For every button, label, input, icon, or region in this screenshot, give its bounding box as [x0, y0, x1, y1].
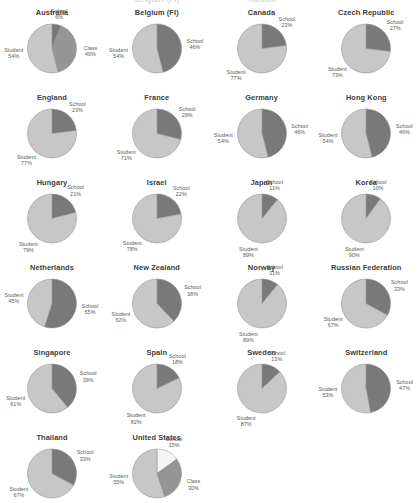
- slice-label-school: School38%: [177, 284, 209, 296]
- slice-label-student: Student53%: [312, 386, 344, 398]
- chart-title: Singapore: [0, 348, 104, 357]
- slice-label-school: School47%: [389, 379, 419, 391]
- slice-label-name: Class: [186, 478, 200, 484]
- slice-label-student: Student89%: [232, 331, 264, 343]
- slice-label-student: Student67%: [3, 486, 35, 498]
- slice-label-name: School: [179, 106, 196, 112]
- chart-title: France: [105, 93, 209, 102]
- slice-label-value: 46%: [284, 129, 316, 135]
- pie-graphic: [235, 192, 288, 245]
- slice-label-value: 55%: [103, 479, 135, 485]
- pie-graphic: [340, 192, 393, 245]
- slice-label-school: School11%: [259, 264, 291, 276]
- slice-label-name: School: [82, 303, 99, 309]
- chart-title: Czech Republic: [314, 8, 418, 17]
- slice-label-value: 22%: [165, 191, 197, 197]
- slice-label-name: Student: [324, 316, 343, 322]
- pie-chart-thailand: ThailandSchool33%Student67%: [0, 433, 104, 503]
- slice-label-name: Student: [4, 47, 23, 53]
- slice-label-name: School: [266, 264, 283, 270]
- chart-title: Thailand: [0, 433, 104, 442]
- slice-label-school: School46%: [284, 123, 316, 135]
- slice-label-value: 73%: [321, 72, 353, 78]
- pie-graphic: [130, 192, 183, 245]
- slice-label-school: School39%: [72, 370, 104, 382]
- pie-slice-student: [342, 364, 371, 413]
- slice-label-value: 82%: [120, 419, 152, 425]
- slice-label-student: Student55%: [103, 473, 135, 485]
- slice-label-value: 53%: [312, 392, 344, 398]
- pie-chart-germany: GermanySchool46%Student54%: [210, 93, 314, 178]
- slice-label-name: Student: [109, 47, 128, 53]
- pie-chart-israel: IsraelSchool22%Student78%: [105, 178, 209, 263]
- slice-label-school: School46%: [179, 38, 211, 50]
- slice-label-name: School: [268, 350, 285, 356]
- slice-label-student: Student82%: [120, 412, 152, 424]
- slice-label-student: Student54%: [207, 132, 239, 144]
- pie-chart-belgium-fl: Belgium (Fl)School46%Student54%: [105, 8, 209, 93]
- chart-title: Russian Federation: [314, 263, 418, 272]
- slice-label-school: School23%: [61, 101, 93, 113]
- slice-label-name: School: [184, 284, 201, 290]
- slice-label-student: Student67%: [317, 316, 349, 328]
- slice-label-name: Student: [328, 66, 347, 72]
- pie-slice-school: [366, 364, 391, 413]
- slice-label-name: Student: [123, 240, 142, 246]
- slice-label-value: 62%: [105, 317, 137, 323]
- pie-graphic: [340, 362, 393, 415]
- pie-graphic: [130, 22, 183, 75]
- pie-chart-russian-federation: Russian FederationSchool33%Student67%: [314, 263, 418, 348]
- slice-label-value: 10%: [362, 185, 394, 191]
- slice-label-name: School: [291, 123, 308, 129]
- slice-label-student: Student61%: [0, 395, 32, 407]
- slice-label-name: School: [77, 449, 94, 455]
- slice-label-school: School6%: [43, 8, 75, 20]
- slice-label-name: School: [396, 123, 413, 129]
- pie-chart-france: FranceSchool29%Student71%: [105, 93, 209, 178]
- slice-label-value: 15%: [158, 442, 190, 448]
- chart-title: Germany: [210, 93, 314, 102]
- slice-label-school: School23%: [271, 16, 303, 28]
- pie-chart-spain: SpainSchool18%Student82%: [105, 348, 209, 433]
- slice-label-name: Student: [19, 241, 38, 247]
- slice-label-value: 78%: [116, 246, 148, 252]
- slice-label-school: School13%: [261, 350, 293, 362]
- slice-label-name: Student: [239, 331, 258, 337]
- slice-label-name: Student: [5, 292, 24, 298]
- slice-label-school: School10%: [362, 179, 394, 191]
- slice-label-name: School: [166, 436, 183, 442]
- slice-label-value: 46%: [388, 129, 419, 135]
- pie-slice-student: [342, 194, 391, 243]
- slice-label-value: 89%: [232, 337, 264, 343]
- slice-label-name: School: [187, 38, 204, 44]
- pie-chart-czech-republic: Czech RepublicSchool27%Student73%: [314, 8, 418, 93]
- slice-label-name: Student: [345, 246, 364, 252]
- pie-chart-hong-kong: Hong KongSchool46%Student54%: [314, 93, 418, 178]
- pie-graphic: [235, 277, 288, 330]
- slice-label-name: Student: [6, 395, 25, 401]
- pie-chart-canada: CanadaSchool23%Student77%: [210, 8, 314, 93]
- slice-label-name: Student: [237, 415, 256, 421]
- slice-label-school: School29%: [171, 106, 203, 118]
- slice-label-value: 54%: [103, 53, 135, 59]
- pie-chart-australia: AustraliaSchool6%Class40%Student54%: [0, 8, 104, 93]
- pie-chart-united-states: United StatesSchool15%Class30%Student55%: [105, 433, 209, 503]
- pie-graphic: [26, 107, 79, 160]
- slice-label-student: Student73%: [321, 66, 353, 78]
- slice-label-name: Student: [318, 386, 337, 392]
- slice-label-name: School: [370, 179, 387, 185]
- slice-label-school: School11%: [259, 179, 291, 191]
- slice-label-value: 11%: [259, 185, 291, 191]
- slice-label-student: Student45%: [0, 292, 30, 304]
- slice-label-value: 79%: [12, 247, 44, 253]
- slice-label-student: Student77%: [11, 154, 43, 166]
- slice-label-name: School: [173, 185, 190, 191]
- slice-label-school: School55%: [74, 303, 106, 315]
- chart-title: New Zealand: [105, 263, 209, 272]
- slice-label-school: School46%: [388, 123, 419, 135]
- pie-slice-student: [237, 279, 286, 328]
- slice-label-school: School33%: [69, 449, 101, 461]
- slice-label-student: Student71%: [110, 149, 142, 161]
- slice-label-student: Student77%: [220, 69, 252, 81]
- slice-label-name: Student: [17, 154, 36, 160]
